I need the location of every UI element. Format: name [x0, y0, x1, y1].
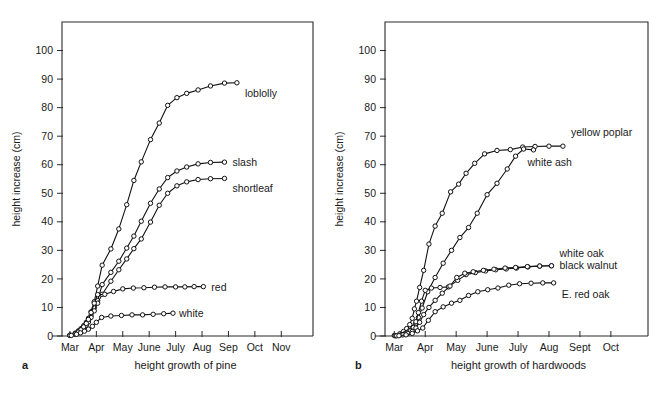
data-point-marker — [464, 171, 468, 175]
data-point-marker — [208, 177, 212, 181]
data-point-marker — [441, 261, 445, 265]
data-point-marker — [109, 314, 113, 318]
data-point-marker — [486, 288, 490, 292]
data-point-marker — [162, 312, 166, 316]
x-axis-tick-label: Nov — [272, 341, 291, 353]
data-point-marker — [222, 160, 226, 164]
data-point-marker — [421, 268, 425, 272]
data-point-marker — [92, 301, 96, 305]
y-axis-tick-label: 0 — [370, 330, 376, 342]
y-axis-tick-label: 20 — [364, 273, 376, 285]
data-point-marker — [235, 81, 239, 85]
y-axis-tick-label: 80 — [364, 101, 376, 113]
data-point-marker — [148, 220, 152, 224]
data-point-marker — [157, 203, 161, 207]
data-point-marker — [507, 283, 511, 287]
x-axis-tick-label: July — [509, 341, 528, 353]
panel-a-caption-row: a height growth of pine — [0, 359, 333, 375]
data-point-marker — [100, 282, 104, 286]
data-point-marker — [132, 234, 136, 238]
series-label-red: red — [211, 281, 226, 293]
series-label-shortleaf: shortleaf — [232, 182, 272, 194]
data-point-marker — [541, 281, 545, 285]
y-axis-tick-label: 60 — [41, 158, 53, 170]
y-axis-tick-label: 50 — [41, 187, 53, 199]
y-axis-tick-label: 80 — [41, 101, 53, 113]
y-axis-tick-label: 30 — [364, 244, 376, 256]
data-point-marker — [551, 281, 555, 285]
data-point-marker — [165, 103, 169, 107]
data-point-marker — [449, 301, 453, 305]
data-point-marker — [426, 318, 430, 322]
data-point-marker — [492, 267, 496, 271]
data-point-marker — [549, 264, 553, 268]
data-point-marker — [95, 284, 99, 288]
data-point-marker — [222, 176, 226, 180]
y-axis-tick-label: 100 — [358, 44, 376, 56]
x-axis-tick-label: Sep — [219, 341, 238, 353]
data-point-marker — [117, 227, 121, 231]
data-point-marker — [495, 181, 499, 185]
data-point-marker — [152, 285, 156, 289]
data-point-marker — [132, 246, 136, 250]
data-point-marker — [433, 275, 437, 279]
data-point-marker — [196, 162, 200, 166]
data-point-marker — [441, 305, 445, 309]
data-point-marker — [448, 284, 452, 288]
data-point-marker — [222, 81, 226, 85]
y-axis-tick-label: 10 — [41, 301, 53, 313]
data-point-marker — [109, 279, 113, 283]
data-point-marker — [139, 237, 143, 241]
y-axis-tick-label: 90 — [364, 73, 376, 85]
data-point-marker — [482, 152, 486, 156]
series-label-yellow-poplar: yellow poplar — [571, 126, 633, 138]
y-axis-tick-label: 0 — [47, 330, 53, 342]
panel-b-caption-row: b height growth of hardwoods — [333, 359, 666, 375]
x-axis-tick-label: Apr — [417, 341, 434, 353]
data-point-marker — [440, 211, 444, 215]
data-point-marker — [404, 333, 408, 337]
data-point-marker — [185, 91, 189, 95]
data-point-marker — [521, 147, 525, 151]
data-point-marker — [139, 160, 143, 164]
series-label-loblolly: loblolly — [245, 87, 278, 99]
data-point-marker — [142, 286, 146, 290]
data-point-marker — [496, 286, 500, 290]
data-point-marker — [90, 324, 94, 328]
data-point-marker — [456, 182, 460, 186]
series-label-white: white — [178, 307, 204, 319]
data-point-marker — [196, 88, 200, 92]
data-point-marker — [157, 121, 161, 125]
data-point-marker — [117, 259, 121, 263]
y-axis-tick-label: 70 — [41, 130, 53, 142]
data-point-marker — [201, 284, 205, 288]
data-point-marker — [125, 257, 129, 261]
data-point-marker — [109, 270, 113, 274]
series-label-white-ash: white ash — [527, 156, 573, 168]
data-point-marker — [397, 334, 401, 338]
data-point-marker — [438, 285, 442, 289]
y-axis-tick-label: 90 — [41, 73, 53, 85]
data-point-marker — [86, 327, 90, 331]
data-point-marker — [410, 316, 414, 320]
hardwoods-growth-chart: 0102030405060708090100MarAprMayJuneJulyA… — [333, 0, 666, 393]
series-label-e-red-oak: E. red oak — [562, 288, 611, 300]
data-point-marker — [414, 299, 418, 303]
series-label-black-walnut: black walnut — [559, 259, 617, 271]
data-point-marker — [513, 265, 517, 269]
data-point-marker — [466, 293, 470, 297]
data-point-marker — [458, 298, 462, 302]
data-point-marker — [208, 84, 212, 88]
data-point-marker — [185, 165, 189, 169]
x-axis-tick-label: Aug — [540, 341, 559, 353]
x-axis-tick-label: May — [446, 341, 467, 353]
x-axis-tick-label: Mar — [61, 341, 80, 353]
data-point-marker — [433, 310, 437, 314]
data-point-marker — [151, 312, 155, 316]
data-point-marker — [417, 285, 421, 289]
x-axis-tick-label: Mar — [385, 341, 404, 353]
y-axis-tick-label: 40 — [364, 215, 376, 227]
x-axis-tick-label: Oct — [603, 341, 619, 353]
data-point-marker — [455, 275, 459, 279]
x-axis-tick-label: July — [166, 341, 185, 353]
